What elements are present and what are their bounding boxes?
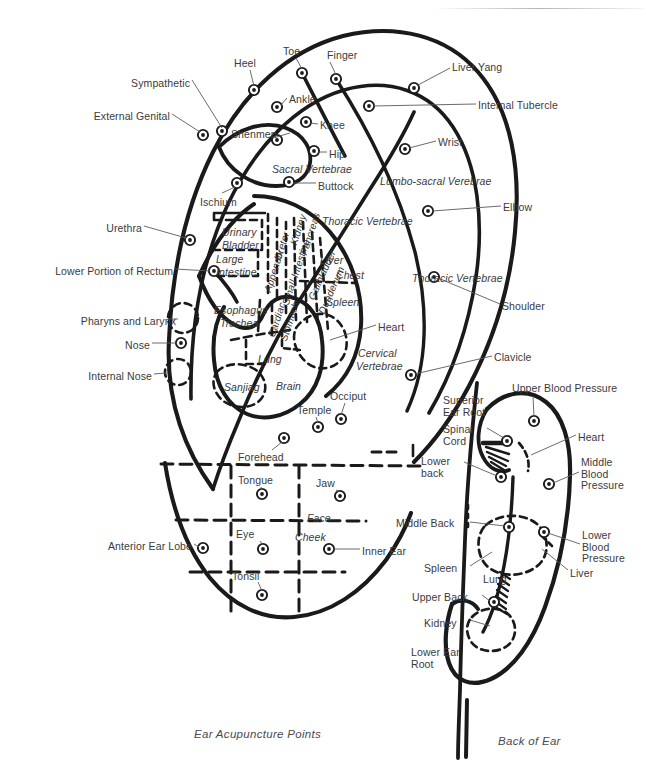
label-upper-blood-pressure: Upper Blood Pressure — [512, 383, 642, 395]
leader-upper-blood-pressure — [533, 396, 534, 417]
label-forehead: Forehead — [238, 452, 296, 464]
point-clavicle[interactable] — [406, 370, 416, 380]
label-superior-ear-root: Superior Ear Root — [443, 395, 501, 418]
point-urethra[interactable] — [185, 235, 195, 245]
leader-liver-yang — [418, 68, 450, 85]
label-lower-blood-pressure: Lower Blood Pressure — [582, 530, 642, 565]
point-buttock[interactable] — [284, 177, 294, 187]
leader-elbow — [432, 206, 501, 211]
label-liver-back: Liver — [570, 568, 606, 580]
point-wrist[interactable] — [400, 144, 410, 154]
point-nose[interactable] — [176, 338, 186, 348]
point-toe[interactable] — [297, 68, 307, 78]
label-wrist: Wrist — [438, 137, 474, 149]
leader-line-layer — [144, 58, 580, 626]
point-jaw[interactable] — [335, 491, 345, 501]
point-heel[interactable] — [249, 85, 259, 95]
label-buttock: Buttock — [318, 181, 368, 193]
zone-vertebrae: Vertebrae — [356, 361, 403, 373]
zone-trachea: Trachea — [220, 318, 258, 330]
point-lower-back[interactable] — [496, 472, 506, 482]
zone-large: Large — [216, 254, 243, 266]
label-shoulder: Shoulder — [502, 301, 560, 313]
label-upper-back: Upper Back — [412, 592, 480, 604]
leader-spinal-cord — [487, 428, 504, 438]
point-ankle[interactable] — [272, 102, 282, 112]
point-anterior-ear-lobe[interactable] — [198, 543, 208, 553]
point-tongue[interactable] — [257, 489, 267, 499]
point-ischium[interactable] — [232, 178, 242, 188]
point-middle-blood-pressure[interactable] — [544, 479, 554, 489]
zone-bladder: Bladder — [222, 240, 259, 252]
label-kidney-back: Kidney — [424, 618, 468, 630]
label-inner-ear: Inner Ear — [362, 546, 420, 558]
point-knee[interactable] — [301, 117, 311, 127]
leader-internal-tubercle — [373, 104, 476, 106]
leader-sympathetic — [192, 80, 222, 128]
label-internal-tubercle: Internal Tubercle — [478, 100, 588, 112]
lobe-grid-mid — [176, 520, 366, 521]
point-upper-back[interactable] — [489, 597, 499, 607]
label-ankle: Ankle — [289, 94, 327, 106]
zone-cervical: Cervical — [358, 348, 397, 360]
label-middle-blood-pressure: Middle Blood Pressure — [581, 457, 641, 492]
acupuncture-point-layer — [176, 68, 554, 607]
zone-urinary: Urinary — [222, 227, 257, 239]
label-spinal-cord: Spinal Cord — [443, 424, 485, 447]
leader-forehead — [272, 442, 282, 450]
zone-face: Face — [307, 513, 331, 525]
leader-urethra — [144, 226, 186, 238]
leader-wrist — [409, 141, 436, 148]
ear-lobe-outline — [165, 463, 411, 617]
point-tonsil[interactable] — [257, 590, 267, 600]
point-inner-ear[interactable] — [324, 544, 334, 554]
label-heel: Heel — [234, 58, 266, 70]
point-lower-blood-pressure[interactable] — [539, 527, 549, 537]
leader-liver-back — [542, 549, 568, 570]
leader-ankle — [281, 98, 287, 105]
label-tongue: Tongue — [238, 475, 286, 487]
label-lower-portion-of-rectum: Lower Portion of Rectum — [33, 266, 173, 278]
label-knee: Knee — [320, 120, 356, 132]
caption-back: Back of Ear — [498, 735, 561, 747]
point-temple[interactable] — [313, 422, 323, 432]
point-elbow[interactable] — [423, 206, 433, 216]
label-jaw: Jaw — [316, 478, 344, 490]
label-heart-back: Heart — [578, 432, 618, 444]
point-internal-tubercle[interactable] — [364, 101, 374, 111]
zone-thoracic-vertebrae-in: Thoracic Vertebrae — [322, 216, 413, 228]
zone-sacral-vertebrae: Sacral Vertebrae — [272, 164, 352, 176]
label-toe: Toe — [283, 46, 309, 58]
label-internal-nose: Internal Nose — [66, 371, 152, 383]
heart-dash-mark-back — [519, 443, 529, 471]
label-urethra: Urethra — [90, 223, 142, 235]
point-forehead[interactable] — [279, 433, 289, 443]
label-external-genital: External Genital — [62, 111, 170, 123]
label-hip: Hip — [329, 149, 353, 161]
leader-toe — [296, 58, 302, 69]
caption-front: Ear Acupuncture Points — [194, 728, 321, 740]
point-hip[interactable] — [309, 146, 319, 156]
label-clavicle: Clavicle — [494, 352, 544, 364]
zone-lumbo-sacral-verebrae: Lumbo-sacral Verebrae — [380, 176, 491, 188]
leader-middle-blood-pressure — [553, 472, 579, 483]
label-ischium: Ischium — [200, 197, 250, 209]
label-lower-back: Lower back — [421, 456, 463, 479]
zone-sanjiag: Sanjiag — [224, 382, 260, 394]
label-lower-ear-root: Lower Ear Root — [411, 647, 469, 670]
label-occiput: Occiput — [330, 391, 380, 403]
label-tonsil: Tonsil — [232, 571, 272, 583]
label-eye: Eye — [236, 529, 262, 541]
label-sympathetic: Sympathetic — [104, 78, 190, 90]
figure-divider-stroke — [466, 700, 467, 757]
leader-finger — [330, 62, 336, 75]
label-finger: Finger — [327, 50, 371, 62]
label-shenmen: Shenmen — [231, 129, 289, 141]
point-upper-blood-pressure[interactable] — [529, 416, 539, 426]
point-eye[interactable] — [258, 544, 268, 554]
label-middle-back: Middle Back — [396, 518, 468, 530]
ear-acupuncture-figure: SympatheticExternal GenitalHeelToeFinger… — [0, 0, 646, 777]
point-middle-back[interactable] — [504, 522, 514, 532]
point-liver-yang[interactable] — [409, 83, 419, 93]
point-finger[interactable] — [331, 74, 341, 84]
